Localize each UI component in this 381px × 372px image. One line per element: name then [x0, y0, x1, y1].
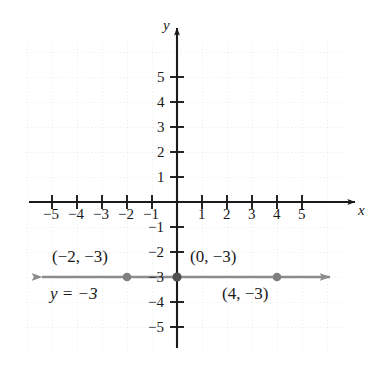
y-tick-label--2: −2: [148, 245, 164, 260]
point-label-4-neg3: (4, −3): [222, 285, 268, 302]
x-tick-label-4: 4: [273, 207, 281, 222]
grid-area: [27, 37, 345, 352]
y-tick-label--5: −5: [148, 320, 164, 335]
data-point-neg2-neg3: [123, 273, 132, 282]
x-tick-label--3: −3: [93, 207, 109, 222]
x-tick-label-5: 5: [298, 207, 306, 222]
y-axis-label: y: [163, 18, 170, 33]
y-tick-label-4: 4: [157, 95, 165, 110]
graph-canvas: [0, 0, 381, 372]
y-tick-label--1: −1: [148, 220, 164, 235]
x-tick-label-1: 1: [198, 207, 206, 222]
y-tick-label--4: −4: [148, 295, 164, 310]
x-tick-label-3: 3: [248, 207, 256, 222]
x-axis-label: x: [358, 203, 365, 218]
y-tick-label-1: 1: [157, 170, 165, 185]
y-tick-label--3: −3: [148, 270, 164, 285]
data-point-4-neg3: [273, 273, 282, 282]
x-tick-label--2: −2: [118, 207, 134, 222]
y-tick-label-5: 5: [157, 70, 165, 85]
coordinate-plane-figure: −5 −4 −3 −2 −1 1 2 3 4 5 5 4 3 2 1 −1 −2…: [0, 0, 381, 372]
point-label-neg2-neg3: (−2, −3): [52, 248, 108, 265]
y-tick-label-3: 3: [157, 120, 165, 135]
x-tick-label--4: −4: [68, 207, 84, 222]
x-tick-label--5: −5: [43, 207, 59, 222]
x-tick-label-2: 2: [223, 207, 231, 222]
point-label-0-neg3: (0, −3): [190, 248, 236, 265]
equation-label: y = −3: [50, 285, 98, 302]
y-tick-label-2: 2: [157, 145, 165, 160]
data-point-0-neg3: [172, 272, 181, 281]
